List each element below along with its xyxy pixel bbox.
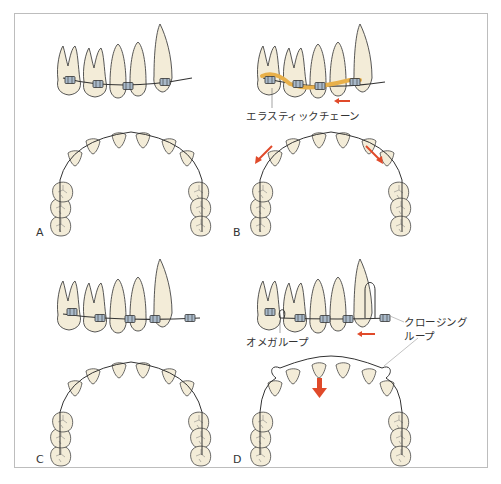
arrow-left-icon [357,331,375,337]
panel-label-d: D [233,453,241,466]
panel-b-lateral-view [257,24,385,108]
panel-label-c: C [36,453,44,466]
panel-a-occlusal-view [51,132,211,236]
arrow-down-icon [312,378,327,398]
panel-a-lateral-view [57,24,192,98]
label-omega-loop: オメガループ [246,334,308,349]
panel-d-occlusal-view [251,338,418,466]
panel-label-a: A [36,226,44,239]
panel-b-occlusal-view [251,132,411,236]
panel-c-occlusal-view [51,362,211,466]
dental-diagram [0,0,501,484]
panel-label-b: B [233,226,241,239]
label-closing-loop-line1: クロージング [404,314,467,329]
label-closing-loop-line2: ループ [404,328,435,343]
panel-d-lateral-view [257,259,404,337]
arrow-left-icon [334,98,350,104]
label-elastic-chain: エラスティックチェーン [246,108,360,123]
panel-c-lateral-view [57,259,200,333]
